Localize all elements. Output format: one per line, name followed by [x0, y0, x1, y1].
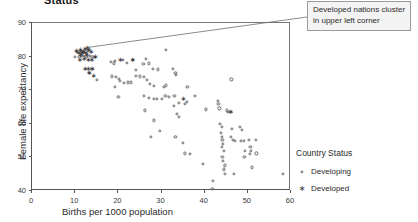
data-point-developing — [218, 107, 221, 110]
data-point-developing — [153, 85, 156, 88]
x-axis-tick-label: 50 — [243, 196, 251, 205]
data-point-developing — [220, 126, 223, 129]
data-point-developed — [130, 57, 135, 63]
y-axis-tick — [29, 190, 32, 191]
data-point-developing — [254, 138, 257, 141]
data-point-developing — [201, 163, 204, 166]
data-point-developing — [149, 82, 152, 85]
data-point-developing — [173, 94, 176, 97]
data-point-developing — [240, 128, 243, 131]
data-point-developing — [249, 145, 252, 148]
annotation-text: Developed nations cluster in upper left … — [313, 5, 405, 25]
x-axis-tick-label: 10 — [70, 196, 78, 205]
data-point-developing — [144, 109, 147, 112]
data-point-developing — [194, 94, 197, 97]
data-point-developing — [164, 48, 167, 51]
data-point-developing — [186, 85, 189, 88]
plot-area — [31, 22, 290, 190]
data-point-developing — [150, 136, 153, 139]
data-point-developed — [91, 73, 96, 79]
data-point-developing — [134, 68, 137, 71]
data-point-developing — [222, 168, 225, 171]
data-points-layer — [32, 23, 289, 189]
x-axis-tick-label: 20 — [113, 196, 121, 205]
x-axis-tick — [74, 190, 75, 193]
data-point-developing — [222, 159, 225, 162]
asterisk-icon: ∗ — [296, 184, 308, 194]
data-point-developing — [217, 102, 220, 105]
data-point-developing — [233, 139, 236, 142]
data-point-developing — [147, 97, 150, 100]
data-point-developing — [147, 62, 150, 65]
data-point-developing — [174, 136, 177, 139]
x-axis-tick-label: 40 — [199, 196, 207, 205]
data-point-developing — [160, 97, 163, 100]
data-point-developing — [223, 164, 226, 167]
y-axis-tick — [29, 156, 32, 157]
data-point-developing — [125, 61, 128, 64]
data-point-developing — [175, 73, 178, 76]
data-point-developing — [223, 172, 226, 175]
data-point-developing — [211, 187, 214, 190]
data-point-developing — [145, 79, 148, 82]
y-axis-tick — [29, 89, 32, 90]
data-point-developing — [255, 152, 258, 155]
legend-label-developed: Developed — [311, 184, 349, 193]
y-axis-tick — [29, 56, 32, 57]
data-point-developing — [113, 59, 116, 62]
data-point-developed — [118, 57, 123, 63]
x-axis-title: Births per 1000 population — [62, 206, 173, 217]
open-circle-icon — [296, 167, 308, 177]
data-point-developing — [151, 67, 154, 70]
data-point-developed — [228, 109, 233, 115]
data-point-developing — [143, 95, 146, 98]
data-point-developing — [212, 179, 215, 182]
data-point-developing — [156, 68, 159, 71]
data-point-developing — [153, 119, 156, 122]
legend-item-developing[interactable]: Developing — [296, 165, 414, 178]
data-point-developed — [93, 54, 98, 60]
x-axis-tick-label: 30 — [156, 196, 164, 205]
data-point-developed — [181, 96, 186, 102]
data-point-developing — [156, 98, 159, 101]
data-point-developing — [247, 138, 250, 141]
data-point-developing — [220, 145, 223, 148]
x-axis-tick — [117, 190, 118, 193]
data-point-developing — [142, 62, 145, 65]
data-point-developing — [114, 85, 117, 88]
data-point-developing — [248, 152, 251, 155]
data-point-developing — [244, 149, 247, 152]
x-axis-tick — [161, 190, 162, 193]
legend-item-developed[interactable]: ∗ Developed — [296, 182, 414, 195]
data-point-developing — [230, 78, 233, 81]
x-axis-tick — [247, 190, 248, 193]
data-point-developing — [134, 74, 137, 77]
data-point-developing — [171, 67, 174, 70]
data-point-developing — [222, 149, 225, 152]
data-point-developing — [242, 140, 245, 143]
y-axis-tick-label: 90 — [5, 18, 26, 27]
data-point-developing — [251, 166, 254, 169]
scatter-chart: Status 0102030405060405060708090 Births … — [0, 0, 418, 222]
y-axis-tick — [29, 123, 32, 124]
data-point-developing — [282, 173, 285, 176]
data-point-developing — [172, 104, 175, 107]
data-point-developing — [168, 95, 171, 98]
data-point-developing — [138, 75, 141, 78]
data-point-developing — [181, 142, 184, 145]
annotation-callout: Developed nations cluster in upper left … — [307, 1, 411, 31]
data-point-developing — [221, 139, 224, 142]
data-point-developing — [231, 127, 234, 130]
data-point-developing — [158, 129, 161, 132]
legend-title: Country Status — [296, 148, 414, 158]
legend-label-developing: Developing — [311, 167, 351, 176]
data-point-developing — [122, 81, 125, 84]
data-point-developing — [144, 58, 147, 61]
data-point-developing — [178, 115, 181, 118]
x-axis-tick-label: 60 — [286, 196, 294, 205]
data-point-developing — [232, 173, 235, 176]
data-point-developing — [165, 84, 168, 87]
data-point-developing — [130, 81, 133, 84]
data-point-developing — [164, 95, 167, 98]
x-axis-tick — [204, 190, 205, 193]
